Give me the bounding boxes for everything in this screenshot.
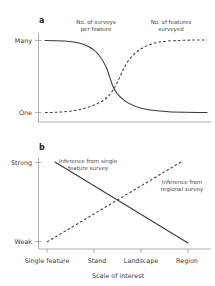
panel-a-annotation-features-surveyed: No. of features surveyed [151,19,192,33]
panel-b-xlabel-landscape: Landscape [124,257,158,265]
panel-b-xlabel-region: Region [176,257,198,265]
panel-b-annotation-regional-line2: regional survey [161,186,204,193]
panel-b-xlabel-single-feature: Single feature [25,257,70,265]
panel-b: b Strong Weak Inference from single feat… [11,143,211,280]
panel-a-ytick-one: One [19,109,32,117]
panel-a-annotation-features-line2: surveyed [158,26,183,33]
panel-b-annotation-single-feature: Inference from single feature survey [59,158,118,172]
panel-b-x-axis-title: Scale of interest [92,272,144,280]
panel-a-curve-surveys-per-feature [45,41,207,113]
panel-b-label: b [39,143,45,152]
panel-b-annotation-regional: Inference from regional survey [161,179,204,193]
panel-a-label: a [39,16,44,25]
panel-a-annotation-features-line1: No. of features [151,19,192,25]
panel-b-annotation-single-line1: Inference from single [59,158,118,165]
panel-b-xlabel-stand: Stand [88,257,107,265]
figure-container: a Many One No. of surveys per feature No… [0,0,215,286]
panel-b-annotation-regional-line1: Inference from [162,179,202,185]
panel-b-line-single-feature-survey [55,162,188,243]
panel-a: a Many One No. of surveys per feature No… [15,16,211,122]
panel-b-ytick-weak: Weak [15,238,33,246]
panel-b-annotation-single-line2: feature survey [68,165,109,172]
panel-a-annotation-surveys-line2: per feature [81,26,112,33]
panel-a-annotation-surveys-per-feature: No. of surveys per feature [76,19,115,33]
panel-a-annotation-surveys-line1: No. of surveys [76,19,115,26]
two-panel-line-chart: a Many One No. of surveys per feature No… [0,0,215,286]
panel-b-line-regional-survey [47,162,181,242]
panel-b-ytick-strong: Strong [11,159,32,167]
panel-a-ytick-many: Many [15,37,32,45]
